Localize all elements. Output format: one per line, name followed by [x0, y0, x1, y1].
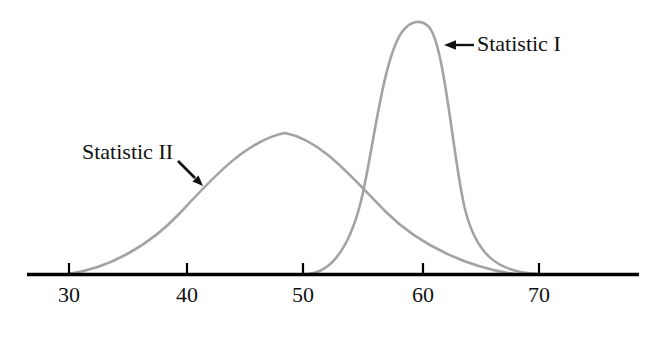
statistical-distribution-figure: 30 40 50 60 70 Statistic I Statistic II — [0, 0, 666, 338]
axis-tick-label-30: 30 — [39, 284, 99, 306]
curve-label-statistic-1: Statistic I — [477, 33, 561, 55]
axis-tick-label-60: 60 — [393, 284, 453, 306]
arrow-statistic-2-icon — [178, 161, 203, 186]
curve-statistic-1 — [308, 22, 538, 274]
axis-tick-label-70: 70 — [509, 284, 569, 306]
axis-tick-label-40: 40 — [157, 284, 217, 306]
arrow-statistic-1-icon — [444, 40, 474, 50]
curve-label-statistic-2: Statistic II — [82, 141, 173, 163]
axis-tick-label-50: 50 — [273, 284, 333, 306]
